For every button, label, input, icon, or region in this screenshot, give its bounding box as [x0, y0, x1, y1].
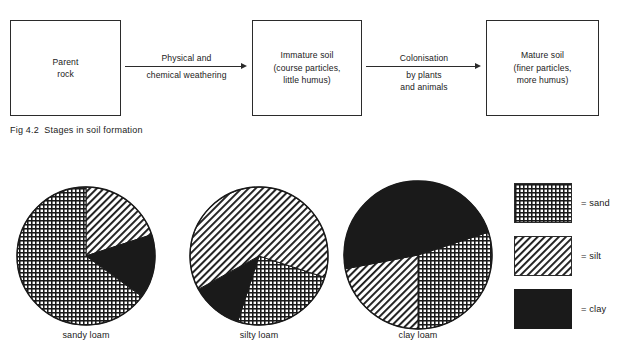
- pie-chart-silty-loam-label: silty loam: [188, 330, 330, 340]
- figure-page: Parent rock Physical and chemical weathe…: [0, 0, 622, 357]
- flow-box-immature-soil-label: Immature soil (course particles, little …: [269, 49, 344, 86]
- pie-chart-silty-loam: silty loam: [188, 184, 330, 352]
- legend-swatch-clay-icon: [514, 289, 572, 329]
- flow-box-parent-rock-label: Parent rock: [49, 56, 83, 81]
- legend-label-clay: = clay: [581, 304, 606, 314]
- legend-item-sand: = sand: [514, 183, 610, 223]
- pie-chart-sandy-loam-svg: [15, 184, 157, 328]
- pie-chart-clay-loam-svg: [338, 180, 498, 330]
- legend-swatch-silt-icon: [514, 236, 572, 276]
- soil-texture-legend: = sand = silt = clay: [514, 183, 614, 333]
- flow-arrow-colonisation-label-top: Colonisation: [366, 52, 482, 64]
- pie-chart-silty-loam-svg: [188, 184, 330, 328]
- flow-box-immature-soil: Immature soil (course particles, little …: [252, 20, 362, 116]
- legend-label-silt: = silt: [581, 251, 601, 261]
- flow-box-mature-soil: Mature soil (finer particles, more humus…: [486, 20, 599, 116]
- flow-arrow-weathering: Physical and chemical weathering: [125, 66, 248, 67]
- legend-swatch-sand-icon: [514, 183, 572, 223]
- figure-caption: Fig 4.2 Stages in soil formation: [10, 125, 143, 135]
- flow-arrow-weathering-label-top: Physical and: [125, 52, 248, 64]
- legend-item-clay: = clay: [514, 289, 606, 329]
- pie-chart-clay-loam-label: clay loam: [338, 330, 498, 340]
- pie-chart-sandy-loam-label: sandy loam: [15, 330, 157, 340]
- pie-chart-sandy-loam: sandy loam: [15, 184, 157, 352]
- legend-label-sand: = sand: [581, 198, 610, 208]
- flow-arrow-colonisation: Colonisation by plants and animals: [366, 66, 482, 67]
- flow-arrow-colonisation-label-bottom: by plants and animals: [366, 69, 482, 94]
- flow-box-mature-soil-label: Mature soil (finer particles, more humus…: [509, 49, 575, 86]
- flow-box-parent-rock: Parent rock: [10, 20, 121, 116]
- flow-arrow-weathering-label-bottom: chemical weathering: [125, 69, 248, 81]
- arrow-line: [125, 66, 241, 67]
- legend-item-silt: = silt: [514, 236, 601, 276]
- pie-chart-clay-loam: clay loam: [338, 180, 498, 352]
- arrow-line: [366, 66, 475, 67]
